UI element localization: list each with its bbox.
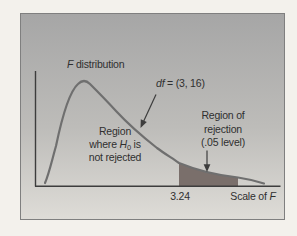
not-rejected-line2-pre: where (89, 138, 119, 150)
h0-var: H (120, 138, 127, 150)
not-rejected-line1: Region (68, 125, 162, 138)
critical-value-label: 3.24 (163, 190, 197, 203)
x-axis-label: Scale of F (222, 190, 284, 203)
rejection-line3: (.05 level) (183, 136, 263, 150)
df-annotation-rest: = (3, 16) (164, 77, 204, 89)
not-rejected-line2-post: is (131, 138, 141, 150)
curve-title: F distribution (67, 58, 124, 71)
x-axis-label-pre: Scale of (230, 190, 269, 202)
not-rejected-line2: where H0 is (68, 138, 162, 151)
rejection-line2: rejection (183, 123, 263, 137)
not-rejected-region-label: Region where H0 is not rejected (68, 125, 162, 164)
rejection-line1: Region of (183, 109, 263, 123)
df-arrow-line (143, 95, 156, 123)
figure-f-distribution: F distribution df = (3, 16) Region where… (0, 0, 297, 236)
rejection-region-label: Region of rejection (.05 level) (183, 109, 263, 150)
x-axis-label-var: F (269, 190, 275, 202)
not-rejected-line3: not rejected (68, 151, 162, 164)
df-annotation: df = (3, 16) (156, 77, 205, 90)
curve-title-rest: distribution (73, 58, 124, 70)
